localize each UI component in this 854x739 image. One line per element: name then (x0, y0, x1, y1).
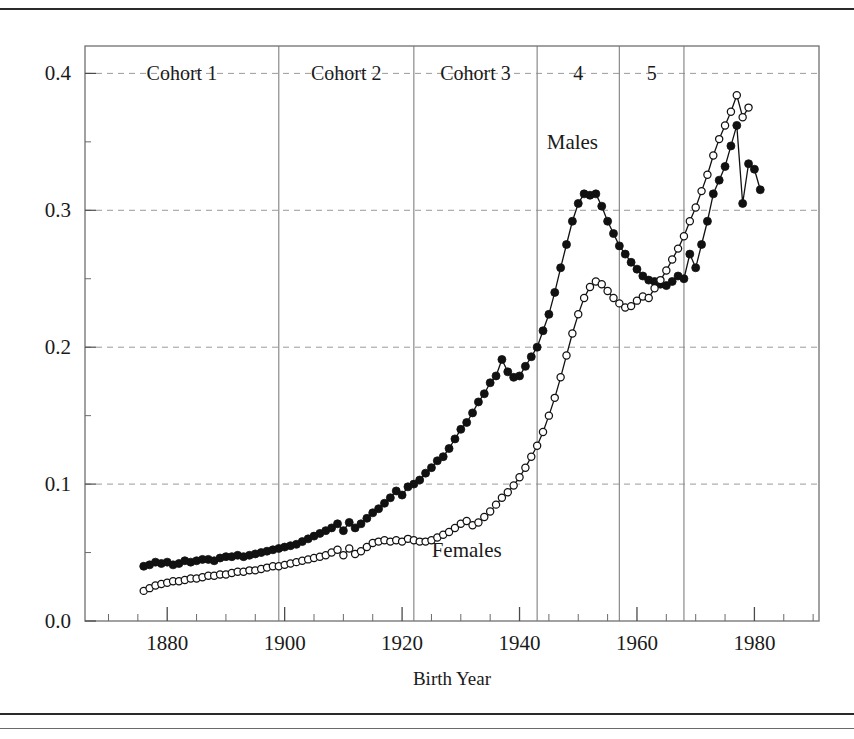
chart-figure: 0.00.10.20.30.4 188019001920194019601980… (0, 0, 854, 739)
page-rule-bottom-thick (0, 713, 854, 715)
x-tick-label: 1920 (381, 631, 423, 655)
y-tick-label: 0.4 (45, 61, 72, 85)
x-axis-tick-labels: 188019001920194019601980 (146, 631, 775, 655)
page-rule-top (0, 8, 854, 10)
x-tick-label: 1880 (146, 631, 188, 655)
males-label: Males (547, 130, 598, 154)
cohort-label: 5 (647, 62, 657, 84)
page-rule-bottom-thin (0, 728, 854, 729)
grid-lines (85, 73, 819, 484)
cohort-label: 4 (573, 62, 583, 84)
series-markers (140, 92, 765, 595)
cohort-label: Cohort 2 (311, 62, 382, 84)
series-annotations: MalesFemales (432, 130, 598, 562)
x-tick-label: 1980 (733, 631, 775, 655)
series-paths (144, 95, 761, 591)
y-axis-ticks (85, 73, 96, 621)
y-tick-label: 0.0 (45, 609, 71, 633)
birth-year-line-plot: 0.00.10.20.30.4 188019001920194019601980… (0, 0, 854, 705)
x-tick-label: 1900 (264, 631, 306, 655)
y-tick-label: 0.2 (45, 335, 71, 359)
x-axis-ticks (108, 607, 813, 621)
cohort-divider-lines (279, 46, 684, 621)
cohort-label: Cohort 1 (147, 62, 218, 84)
y-axis-tick-labels: 0.00.10.20.30.4 (45, 61, 72, 633)
x-tick-label: 1960 (616, 631, 658, 655)
x-tick-label: 1940 (499, 631, 541, 655)
cohort-labels: Cohort 1Cohort 2Cohort 345 (147, 62, 657, 84)
x-axis-title: Birth Year (413, 668, 492, 689)
y-tick-label: 0.3 (45, 198, 71, 222)
females-label: Females (432, 538, 502, 562)
y-tick-label: 0.1 (45, 472, 71, 496)
cohort-label: Cohort 3 (440, 62, 511, 84)
